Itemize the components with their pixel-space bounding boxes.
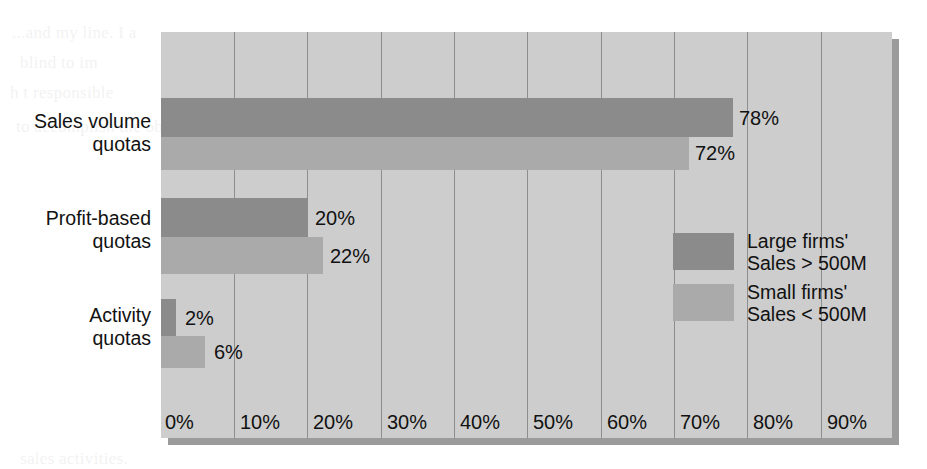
- category-label-activity-quotas: Activity quotas: [0, 304, 151, 350]
- value-axis-tick-labels: 0% 10% 20% 30% 40% 50% 60% 70% 80% 90%: [161, 404, 892, 438]
- category-label-line1: Sales volume: [0, 110, 151, 133]
- plot-area: 78% 72% 20% 22% 2% 6% Large firms' Sales…: [161, 32, 892, 438]
- bar-value-label-22: 22%: [330, 246, 370, 266]
- category-label-line2: quotas: [0, 133, 151, 156]
- bar-value-label-6: 6%: [214, 342, 243, 362]
- legend-label-small-firms: Small firms' Sales < 500M: [747, 281, 867, 325]
- legend-label-line2: Sales < 500M: [747, 303, 867, 325]
- category-label-sales-volume-quotas: Sales volume quotas: [0, 110, 151, 156]
- xtick-label-50: 50%: [533, 412, 573, 432]
- category-label-line1: Profit-based: [0, 207, 151, 230]
- legend-entry-large-firms[interactable]: Large firms' Sales > 500M: [673, 230, 888, 274]
- legend-label-line2: Sales > 500M: [747, 252, 867, 274]
- category-label-line2: quotas: [0, 230, 151, 253]
- bar-chart-figure: Sales volume quotas Profit-based quotas …: [0, 0, 927, 469]
- chart-legend: Large firms' Sales > 500M Small firms' S…: [673, 230, 888, 332]
- legend-swatch-small-firms: [673, 284, 734, 321]
- bar-activity-quotas-small-firms[interactable]: [161, 336, 205, 368]
- gridline-50: [527, 32, 528, 438]
- category-axis-labels: Sales volume quotas Profit-based quotas …: [0, 32, 151, 438]
- xtick-label-70: 70%: [680, 412, 720, 432]
- gridline-30: [381, 32, 382, 438]
- xtick-label-10: 10%: [240, 412, 280, 432]
- gridline-40: [454, 32, 455, 438]
- xtick-label-90: 90%: [827, 412, 867, 432]
- xtick-label-80: 80%: [753, 412, 793, 432]
- bar-sales-volume-quotas-small-firms[interactable]: [161, 137, 689, 170]
- bar-value-label-78: 78%: [739, 108, 779, 128]
- bar-value-label-2: 2%: [185, 308, 214, 328]
- category-label-line2: quotas: [0, 327, 151, 350]
- legend-label-line1: Large firms': [747, 230, 867, 252]
- bar-value-label-72: 72%: [695, 143, 735, 163]
- category-label-line1: Activity: [0, 304, 151, 327]
- xtick-label-60: 60%: [607, 412, 647, 432]
- bar-profit-based-quotas-small-firms[interactable]: [161, 237, 323, 274]
- legend-label-large-firms: Large firms' Sales > 500M: [747, 230, 867, 274]
- bar-sales-volume-quotas-large-firms[interactable]: [161, 98, 733, 137]
- bar-activity-quotas-large-firms[interactable]: [161, 299, 176, 336]
- legend-label-line1: Small firms': [747, 281, 867, 303]
- bar-value-label-20: 20%: [315, 208, 355, 228]
- gridline-60: [601, 32, 602, 438]
- xtick-label-40: 40%: [460, 412, 500, 432]
- xtick-label-0: 0%: [165, 412, 194, 432]
- category-label-profit-based-quotas: Profit-based quotas: [0, 207, 151, 253]
- legend-swatch-large-firms: [673, 233, 734, 270]
- xtick-label-20: 20%: [313, 412, 353, 432]
- bar-profit-based-quotas-large-firms[interactable]: [161, 198, 308, 237]
- xtick-label-30: 30%: [387, 412, 427, 432]
- legend-entry-small-firms[interactable]: Small firms' Sales < 500M: [673, 281, 888, 325]
